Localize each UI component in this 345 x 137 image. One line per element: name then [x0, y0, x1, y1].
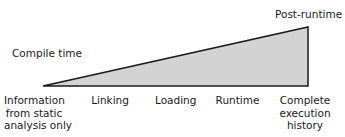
axis-label-linking: Linking [90, 94, 130, 107]
compile-time-label: Compile time [12, 47, 82, 60]
axis-label-runtime: Runtime [215, 94, 260, 107]
axis-label-complete: Complete execution history [275, 94, 335, 132]
axis-label-loading: Loading [155, 94, 195, 107]
wedge-shape [43, 27, 308, 86]
post-runtime-label: Post-runtime [275, 8, 342, 21]
axis-label-static: Information from static analysis only [4, 94, 64, 132]
